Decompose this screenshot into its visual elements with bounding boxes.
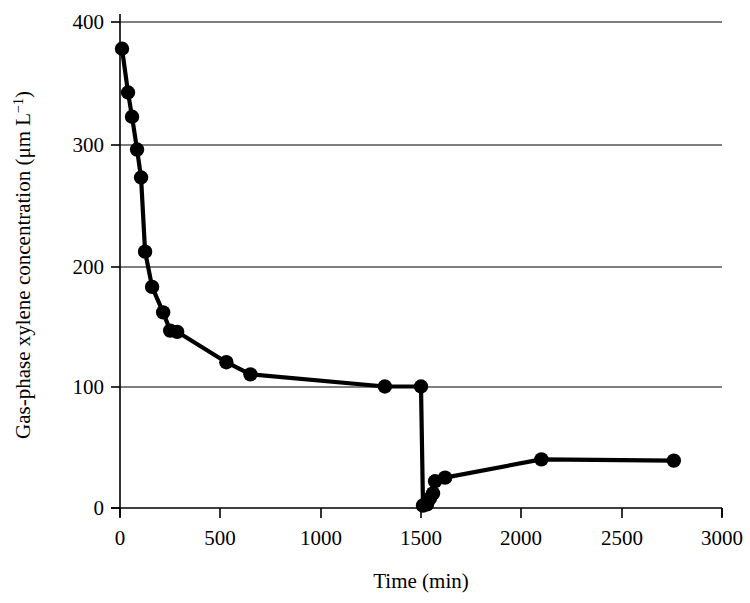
gridlines [120, 22, 722, 387]
x-tick-label-1000: 1000 [300, 526, 342, 550]
data-point-marker [219, 355, 233, 369]
y-axis-title-group: Gas-phase xylene concentration (μm L−1) [11, 91, 35, 439]
y-tick-label-100: 100 [73, 375, 105, 399]
data-point-marker [426, 486, 440, 500]
data-point-marker [138, 244, 152, 258]
y-tick-label-200: 200 [73, 255, 105, 279]
x-tick-label-500: 500 [204, 526, 236, 550]
data-point-marker [156, 305, 170, 319]
data-point-marker [134, 170, 148, 184]
y-tick-label-0: 0 [94, 496, 105, 520]
data-point-marker [243, 367, 257, 381]
y-axis-title-tail: ) [11, 91, 35, 98]
data-series-xylene [115, 42, 681, 513]
data-point-marker [667, 453, 681, 467]
data-point-marker [438, 470, 452, 484]
data-point-marker [115, 42, 129, 56]
data-point-marker [378, 379, 392, 393]
data-point-marker [145, 280, 159, 294]
data-point-marker [121, 85, 135, 99]
y-axis-title-exponent: −1 [11, 98, 26, 113]
y-tick-label-400: 400 [73, 10, 105, 34]
y-tick-label-300: 300 [73, 133, 105, 157]
y-tick-marks [111, 22, 120, 508]
y-axis-title: Gas-phase xylene concentration (μm L−1) [11, 91, 35, 439]
y-axis-title-main: Gas-phase xylene concentration (μm L [11, 113, 35, 439]
series-line [122, 49, 674, 506]
x-tick-label-2500: 2500 [601, 526, 643, 550]
x-tick-label-3000: 3000 [701, 526, 743, 550]
x-tick-label-0: 0 [115, 526, 126, 550]
data-point-marker [125, 110, 139, 124]
data-point-marker [170, 325, 184, 339]
xylene-concentration-chart: 400 300 200 100 0 0 500 1000 1500 2000 2… [0, 0, 750, 603]
x-axis-title: Time (min) [373, 569, 468, 593]
data-point-marker [130, 142, 144, 156]
x-tick-label-1500: 1500 [400, 526, 442, 550]
x-tick-label-2000: 2000 [500, 526, 542, 550]
axes [111, 14, 722, 517]
data-point-marker [414, 379, 428, 393]
chart-canvas: 400 300 200 100 0 0 500 1000 1500 2000 2… [0, 0, 750, 603]
data-point-marker [534, 452, 548, 466]
